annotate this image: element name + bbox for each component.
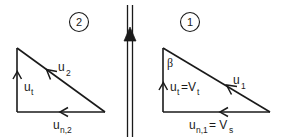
badge-left-label: 2: [76, 16, 82, 28]
right-base-label-sub: n,1: [196, 125, 208, 135]
right-hypotenuse-edge: [163, 48, 270, 112]
right-vertical-label: u t =V t: [170, 80, 200, 97]
center-axis-arrow: [124, 5, 136, 137]
badge-right-label: 1: [187, 16, 193, 28]
right-base-label-main: u: [189, 118, 196, 132]
left-hypotenuse-label: u 2: [58, 60, 71, 78]
right-vertical-label-equals-sub: t: [197, 87, 200, 97]
left-vertical-label-sub: t: [31, 87, 34, 97]
badge-left: 2: [70, 13, 89, 32]
right-vertical-label-equals: =V: [181, 80, 196, 94]
velocity-triangles-diagram: u 2 u t u n,2 2: [0, 0, 284, 140]
right-vertical-label-main: u: [170, 80, 177, 94]
left-hypotenuse-label-main: u: [58, 60, 65, 74]
left-vertical-label: u t: [24, 80, 34, 97]
badge-right: 1: [181, 13, 200, 32]
right-hypotenuse-label-main: u: [233, 73, 240, 87]
left-base-label-sub: n,2: [60, 125, 72, 135]
right-base-label: u n,1 = V s: [189, 118, 233, 135]
left-base-label: u n,2: [53, 118, 72, 135]
left-base-label-main: u: [53, 118, 60, 132]
velocity-triangle-2-group: u 2 u t u n,2 2: [13, 13, 105, 136]
right-base-label-equals: = V: [209, 118, 227, 132]
beta-angle-label: β: [167, 56, 173, 70]
left-hypotenuse-label-sub: 2: [66, 68, 71, 78]
right-base-label-equals-sub: s: [229, 125, 233, 135]
center-axis-up-arrowhead-icon: [124, 27, 136, 41]
right-hypotenuse-label: u 1: [233, 73, 246, 91]
right-hypotenuse-label-sub: 1: [241, 81, 246, 91]
velocity-triangle-1-group: β u 1 u t =V t u n,1 = V s: [159, 13, 270, 136]
left-vertical-label-main: u: [24, 80, 31, 94]
right-vertical-label-sub: t: [177, 87, 180, 97]
